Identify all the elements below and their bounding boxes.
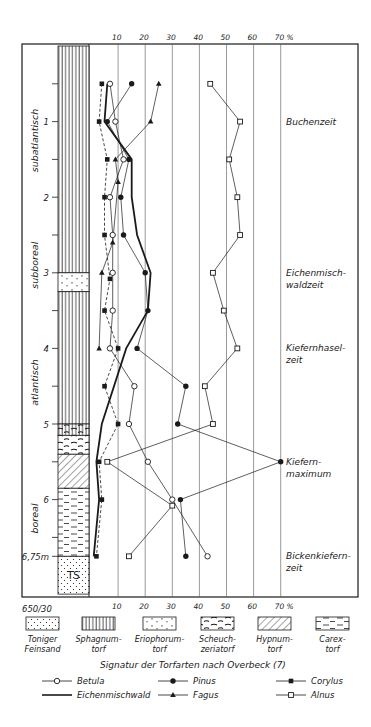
corner-label: 650/30	[22, 604, 52, 614]
x-tick-bottom: 10	[112, 602, 122, 611]
legend-corylus: Corylus	[276, 676, 343, 686]
open-circle-marker-icon	[205, 554, 210, 559]
open-circle-marker-icon	[107, 81, 112, 86]
layer-label: TS	[66, 570, 79, 581]
filled-triangle-marker-icon	[99, 270, 105, 275]
legend-item-sphagnum: Sphagnum-torf	[75, 617, 121, 654]
layer-hypnum	[58, 454, 89, 488]
filled-circle-marker-icon	[183, 554, 188, 559]
pollen-diagram-figure: TS 1234566,75m650/30 10203040506070 % 10…	[0, 0, 371, 727]
zone-label-line2: zeit	[285, 563, 303, 573]
filled-circle-marker-icon	[129, 81, 134, 86]
chart-canvas: TS 1234566,75m650/30 10203040506070 % 10…	[0, 0, 371, 727]
legend-label: Betula	[77, 676, 104, 686]
open-square-marker-icon	[170, 503, 175, 508]
x-tick-bottom: 30	[166, 602, 176, 611]
sediment-legend: TonigerFeinsandSphagnum-torfEriophorum-t…	[24, 617, 349, 670]
legend-label: Eichenmischwald	[77, 690, 151, 700]
series-corylus	[96, 84, 118, 557]
swatch-carex	[316, 617, 349, 630]
filled-triangle-marker-icon	[170, 692, 176, 697]
swatch-scheuchzeria	[201, 617, 234, 630]
percent-axis-top: 10203040506070 %	[112, 33, 294, 42]
open-square-marker-icon	[211, 270, 216, 275]
legend-label: Alnus	[310, 690, 335, 700]
series-betula	[110, 84, 208, 557]
swatch-label: Hypnum-	[256, 635, 293, 644]
zone-label-line2: waldzeit	[286, 280, 324, 290]
filled-square-marker-icon	[100, 497, 105, 502]
series-line	[110, 84, 208, 557]
period-label: atlantisch	[29, 359, 40, 406]
swatch-label: Carex-	[319, 635, 345, 644]
open-circle-marker-icon	[132, 384, 137, 389]
climate-period-labels: subatlantischsubborealatlantischboreal	[29, 109, 40, 534]
legend-fagus: Fagus	[158, 690, 219, 700]
swatch-label: Toniger	[28, 635, 58, 644]
depth-label: 3	[44, 268, 49, 278]
open-circle-marker-icon	[107, 346, 112, 351]
series-legend: BetulaPinusCorylusEichenmischwaldFagusAl…	[42, 676, 343, 700]
filled-circle-marker-icon	[143, 270, 148, 275]
filled-circle-marker-icon	[178, 497, 183, 502]
filled-square-marker-icon	[100, 82, 105, 87]
series-pinus	[107, 84, 280, 557]
x-tick-top: 40	[193, 33, 203, 42]
x-tick-top: 70 %	[275, 33, 294, 42]
period-label: subboreal	[29, 241, 40, 288]
open-square-marker-icon	[211, 422, 216, 427]
filled-square-marker-icon	[102, 384, 107, 389]
open-circle-marker-icon	[110, 308, 115, 313]
legend-item-scheuchzeria: Scheuch-zeriatorf	[199, 617, 236, 654]
percent-gridlines	[89, 44, 281, 597]
swatch-sand	[26, 617, 59, 630]
swatch-label-2: torf	[91, 645, 106, 654]
filled-circle-marker-icon	[278, 459, 283, 464]
open-circle-marker-icon	[110, 232, 115, 237]
open-circle-marker-icon	[110, 270, 115, 275]
zone-label: Bickenkiefern-	[286, 551, 351, 561]
open-square-marker-icon	[238, 119, 243, 124]
depth-label: 2	[44, 193, 49, 203]
zone-label: Buchenzeit	[286, 117, 337, 127]
layer-scheuchzeria	[58, 435, 89, 454]
filled-triangle-marker-icon	[156, 81, 162, 86]
swatch-label-2: Feinsand	[24, 645, 61, 654]
pollen-series	[94, 81, 284, 559]
open-circle-marker-icon	[126, 421, 131, 426]
legend-label: Corylus	[311, 676, 343, 686]
filled-square-marker-icon	[116, 422, 121, 427]
depth-label: 5	[44, 420, 49, 430]
swatch-label-2: torf	[152, 645, 167, 654]
swatch-label-2: torf	[325, 645, 340, 654]
zone-label-line2: zeit	[285, 355, 303, 365]
legend-eichenmischwald: Eichenmischwald	[42, 690, 151, 700]
open-square-marker-icon	[289, 693, 294, 698]
layer-overlay	[58, 424, 89, 435]
layer-sphagnum	[58, 46, 89, 273]
filled-triangle-marker-icon	[110, 240, 116, 245]
open-circle-marker-icon	[145, 459, 150, 464]
filled-triangle-marker-icon	[148, 119, 154, 124]
open-circle-marker-icon	[113, 119, 118, 124]
series-line	[96, 84, 118, 557]
layer-eriophorum	[58, 273, 89, 292]
filled-square-marker-icon	[97, 460, 102, 465]
x-tick-bottom: 60	[248, 602, 258, 611]
open-circle-marker-icon	[54, 678, 59, 683]
x-tick-top: 60	[248, 33, 258, 42]
swatch-label: Scheuch-	[199, 635, 236, 644]
filled-square-marker-icon	[102, 308, 107, 313]
filled-circle-marker-icon	[105, 119, 110, 124]
open-square-marker-icon	[221, 308, 226, 313]
open-circle-marker-icon	[170, 497, 175, 502]
filled-square-marker-icon	[97, 119, 102, 124]
series-line	[107, 84, 280, 557]
x-tick-bottom: 40	[193, 602, 203, 611]
series-markers-pinus	[105, 81, 284, 559]
swatch-sphagnum	[82, 617, 115, 630]
x-tick-top: 20	[139, 33, 149, 42]
legend-label: Fagus	[193, 690, 219, 700]
sediment-column: TS	[58, 46, 89, 594]
swatch-label-2: zeriatorf	[200, 645, 236, 654]
